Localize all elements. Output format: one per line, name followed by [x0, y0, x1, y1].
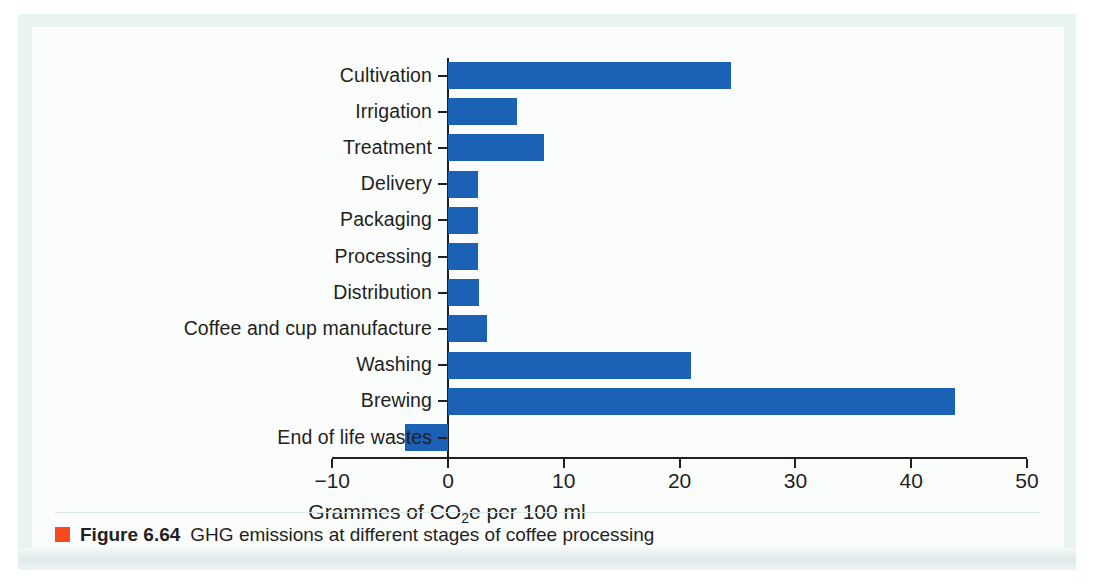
caption-divider — [55, 512, 1040, 513]
x-axis-tick-label: 30 — [784, 470, 807, 491]
bar — [448, 171, 478, 198]
x-axis-title: Grammes of CO2e per 100 ml — [127, 501, 767, 525]
x-axis-tick — [563, 459, 565, 468]
y-axis-tick — [438, 147, 447, 149]
figure-caption: Figure 6.64 GHG emissions at different s… — [55, 524, 654, 546]
x-axis-tick — [447, 459, 449, 468]
bar — [448, 279, 479, 306]
y-axis-tick-label: End of life wastes — [0, 428, 432, 448]
y-axis-tick-label: Treatment — [0, 138, 432, 158]
y-axis-tick — [438, 328, 447, 330]
x-axis-tick — [679, 459, 681, 468]
y-axis-tick — [438, 400, 447, 402]
bar — [448, 207, 478, 234]
y-axis-tick — [438, 364, 447, 366]
y-axis-tick — [438, 219, 447, 221]
bar — [448, 243, 478, 270]
x-axis-tick — [794, 459, 796, 468]
caption-figure-number: Figure 6.64 — [80, 524, 180, 546]
x-axis-tick — [331, 459, 333, 468]
caption-description: GHG emissions at different stages of cof… — [190, 524, 654, 546]
y-axis-tick — [438, 75, 447, 77]
x-axis-tick-label: 0 — [442, 470, 454, 491]
bar — [448, 98, 517, 125]
bar — [448, 315, 487, 342]
y-axis-tick-label: Cultivation — [0, 66, 432, 86]
y-axis-tick — [438, 183, 447, 185]
x-axis-tick-label: −10 — [314, 470, 350, 491]
y-axis-tick-label: Processing — [0, 247, 432, 267]
figure-root: Grammes of CO2e per 100 ml CultivationIr… — [0, 0, 1094, 585]
y-axis-tick-label: Packaging — [0, 210, 432, 230]
y-axis-tick-label: Distribution — [0, 283, 432, 303]
y-axis-tick — [438, 292, 447, 294]
y-axis-tick-label: Delivery — [0, 174, 432, 194]
y-axis-tick-label: Brewing — [0, 391, 432, 411]
y-axis-tick — [438, 111, 447, 113]
x-axis-tick — [1026, 459, 1028, 468]
bar — [448, 388, 955, 415]
x-axis-tick-label: 40 — [900, 470, 923, 491]
x-axis-tick-label: 50 — [1015, 470, 1038, 491]
bar — [448, 62, 731, 89]
y-axis-tick-label: Washing — [0, 355, 432, 375]
bar — [448, 134, 544, 161]
x-axis-tick — [910, 459, 912, 468]
bar — [448, 352, 691, 379]
y-axis-tick — [438, 256, 447, 258]
x-axis-tick-label: 20 — [668, 470, 691, 491]
y-axis-tick-label: Coffee and cup manufacture — [0, 319, 432, 339]
bar-chart: Grammes of CO2e per 100 ml CultivationIr… — [0, 0, 1094, 585]
x-axis-tick-label: 10 — [552, 470, 575, 491]
y-axis-tick-label: Irrigation — [0, 102, 432, 122]
caption-square-icon — [55, 527, 70, 542]
y-axis-tick — [438, 437, 447, 439]
